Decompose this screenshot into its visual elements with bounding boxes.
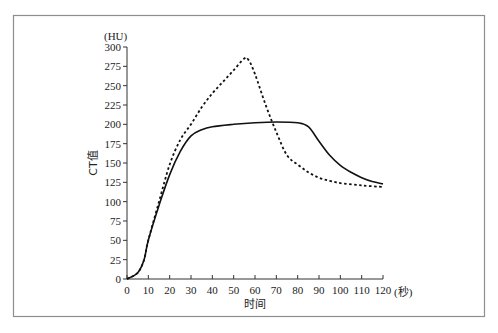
x-tick-label: 20 (164, 284, 176, 296)
x-tick-label: 100 (332, 284, 349, 296)
x-tick-label: 60 (250, 284, 262, 296)
x-tick-label: 40 (207, 284, 219, 296)
x-tick-label: 10 (143, 284, 155, 296)
y-tick-label: 200 (105, 118, 122, 130)
y-tick-label: 175 (105, 138, 122, 150)
figure-frame (14, 16, 485, 317)
y-tick-label: 75 (110, 215, 122, 227)
y-tick-label: 0 (116, 273, 122, 285)
chart-container: 0255075100125150175200225250275300010203… (0, 0, 498, 333)
y-tick-label: 50 (110, 234, 122, 246)
axes: 0255075100125150175200225250275300010203… (105, 41, 392, 296)
x-tick-label: 90 (314, 284, 326, 296)
y-tick-label: 25 (110, 254, 122, 266)
series (127, 58, 383, 279)
line-chart: 0255075100125150175200225250275300010203… (0, 0, 498, 333)
y-tick-label: 100 (105, 196, 122, 208)
x-tick-label: 110 (354, 284, 371, 296)
y-axis-label: CT值 (87, 150, 100, 175)
x-tick-label: 120 (375, 284, 392, 296)
x-tick-label: 0 (124, 284, 130, 296)
solid-series-line (127, 122, 383, 279)
x-tick-label: 80 (292, 284, 304, 296)
y-tick-label: 125 (105, 176, 122, 188)
y-tick-label: 300 (105, 41, 122, 53)
x-tick-label: 30 (186, 284, 198, 296)
y-tick-label: 150 (105, 157, 122, 169)
x-axis-unit: (秒) (394, 285, 413, 299)
x-tick-label: 50 (228, 284, 240, 296)
y-tick-label: 225 (105, 99, 122, 111)
x-tick-label: 70 (271, 284, 283, 296)
y-tick-label: 250 (105, 80, 122, 92)
x-axis-label: 时间 (244, 298, 266, 311)
y-tick-label: 275 (105, 60, 122, 72)
y-axis-unit: (HU) (104, 30, 128, 43)
